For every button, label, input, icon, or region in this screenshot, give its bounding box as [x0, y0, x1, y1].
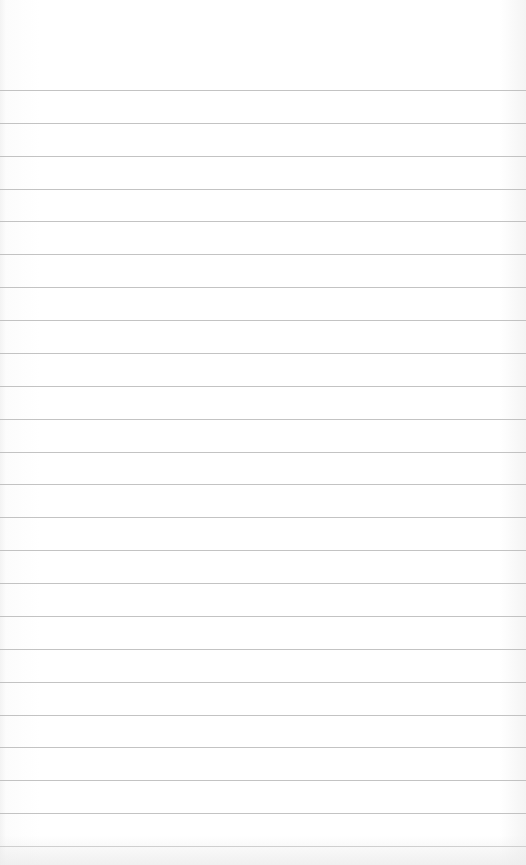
- ruled-line: [0, 517, 526, 518]
- ruled-line: [0, 287, 526, 288]
- ruled-line: [0, 123, 526, 124]
- ruled-line: [0, 90, 526, 91]
- ruled-line: [0, 583, 526, 584]
- ruled-line: [0, 550, 526, 551]
- ruled-line: [0, 715, 526, 716]
- ruled-line: [0, 320, 526, 321]
- ruled-line: [0, 452, 526, 453]
- ruled-line: [0, 386, 526, 387]
- ruled-line: [0, 484, 526, 485]
- ruled-line: [0, 419, 526, 420]
- ruled-line: [0, 156, 526, 157]
- ruled-line: [0, 353, 526, 354]
- ruled-line: [0, 747, 526, 748]
- ruled-line: [0, 616, 526, 617]
- ruled-line: [0, 221, 526, 222]
- lined-paper: [0, 0, 526, 865]
- ruled-line: [0, 189, 526, 190]
- ruled-line: [0, 813, 526, 814]
- ruled-line: [0, 254, 526, 255]
- ruled-line: [0, 780, 526, 781]
- ruled-line: [0, 682, 526, 683]
- ruled-line: [0, 649, 526, 650]
- ruled-line: [0, 846, 526, 847]
